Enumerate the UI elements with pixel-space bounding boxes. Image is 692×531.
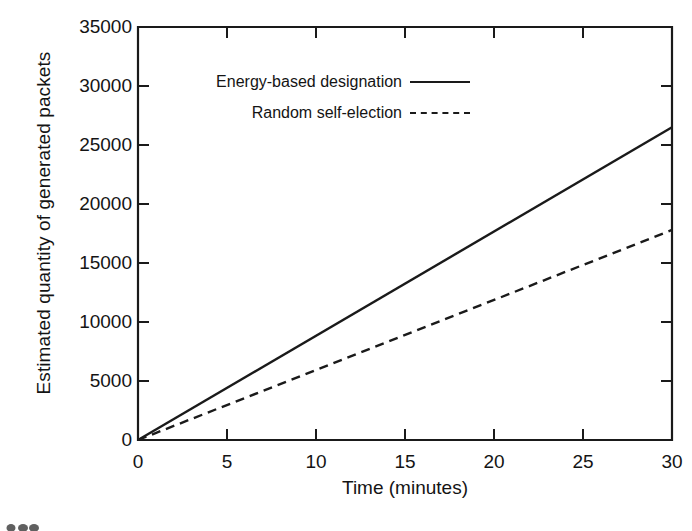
x-axis-tick-label: 10: [286, 452, 346, 471]
scan-artifact: [6, 519, 40, 531]
x-axis-title: Time (minutes): [138, 477, 672, 499]
legend-entry: Random self-election: [150, 103, 470, 134]
x-axis-tick-label: 15: [375, 452, 435, 471]
chart-legend: Energy-based designation Random self-ele…: [150, 72, 470, 134]
x-axis-tick-label: 25: [553, 452, 613, 471]
legend-label-energy-based-designation: Energy-based designation: [216, 72, 402, 92]
x-axis-tick-label: 20: [464, 452, 524, 471]
legend-line-sample-dashed: [410, 112, 470, 114]
legend-label-random-self-election: Random self-election: [252, 103, 402, 123]
legend-line-sample-solid: [410, 81, 470, 83]
x-axis-tick-label: 0: [108, 452, 168, 471]
x-axis-tick-label: 30: [642, 452, 692, 471]
x-axis-tick-label: 5: [197, 452, 257, 471]
legend-entry: Energy-based designation: [150, 72, 470, 103]
